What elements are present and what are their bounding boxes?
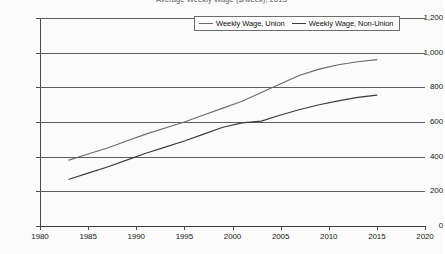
x-tick-mark <box>281 226 282 230</box>
x-tick-label: 1995 <box>164 232 204 241</box>
x-tick-label: 1990 <box>116 232 156 241</box>
y-tick-label: 0 <box>410 221 443 230</box>
x-tick-mark <box>377 226 378 230</box>
chart-title: Average Weekly Wage ($/week), 2015 <box>0 0 443 4</box>
x-tick-mark <box>233 226 234 230</box>
legend-swatch-union <box>199 23 213 24</box>
x-tick-label: 1980 <box>20 232 60 241</box>
y-tick-mark <box>36 191 40 192</box>
y-tick-mark <box>36 122 40 123</box>
y-tick-mark <box>36 87 40 88</box>
legend-item-union[interactable]: Weekly Wage, Union <box>199 19 285 28</box>
y-tick-label: 1,200 <box>410 13 443 22</box>
legend-swatch-non-union <box>292 23 306 24</box>
x-tick-label: 2015 <box>357 232 397 241</box>
legend-label-non-union: Weekly Wage, Non-Union <box>309 19 394 28</box>
x-tick-mark <box>329 226 330 230</box>
x-tick-label: 2010 <box>309 232 349 241</box>
legend-item-non-union[interactable]: Weekly Wage, Non-Union <box>292 19 394 28</box>
y-tick-mark <box>36 157 40 158</box>
gridline <box>40 191 425 192</box>
plot-area <box>40 18 425 226</box>
y-tick-mark <box>36 53 40 54</box>
y-tick-label: 400 <box>410 152 443 161</box>
x-tick-mark <box>184 226 185 230</box>
y-tick-mark <box>36 18 40 19</box>
x-tick-mark <box>40 226 41 230</box>
y-tick-label: 1,000 <box>410 48 443 57</box>
legend-label-union: Weekly Wage, Union <box>216 19 285 28</box>
gridline <box>40 122 425 123</box>
x-tick-mark <box>88 226 89 230</box>
gridline <box>40 53 425 54</box>
chart-legend: Weekly Wage, Union Weekly Wage, Non-Unio… <box>194 16 400 31</box>
gridline <box>40 157 425 158</box>
x-tick-mark <box>425 226 426 230</box>
y-tick-label: 800 <box>410 82 443 91</box>
y-tick-label: 600 <box>410 117 443 126</box>
x-tick-label: 2005 <box>261 232 301 241</box>
x-tick-label: 2020 <box>405 232 445 241</box>
x-tick-label: 1985 <box>68 232 108 241</box>
gridline <box>40 87 425 88</box>
x-tick-label: 2000 <box>213 232 253 241</box>
y-tick-label: 200 <box>410 186 443 195</box>
x-tick-mark <box>136 226 137 230</box>
